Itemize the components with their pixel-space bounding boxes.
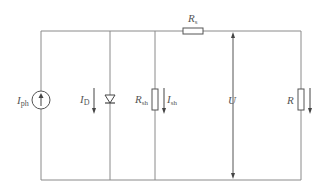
id-label: ID (79, 93, 90, 107)
rs-label: Rs (187, 12, 198, 26)
current-source-icon (32, 91, 50, 109)
circuit-diagram: Iph ID Rsh Ish Rs U (0, 0, 327, 192)
id-current-arrow-icon (92, 88, 96, 114)
series-resistor-icon (183, 28, 203, 34)
shunt-resistor-icon (152, 89, 158, 110)
ish-label: Ish (166, 93, 177, 107)
rsh-label: Rsh (134, 93, 148, 107)
load-resistor-icon (298, 89, 304, 110)
iph-label: Iph (16, 94, 29, 108)
r-label: R (286, 94, 294, 106)
diode-icon (105, 95, 115, 103)
u-label: U (228, 94, 237, 106)
load-current-arrow-icon (308, 88, 312, 114)
ish-current-arrow-icon (162, 88, 166, 114)
